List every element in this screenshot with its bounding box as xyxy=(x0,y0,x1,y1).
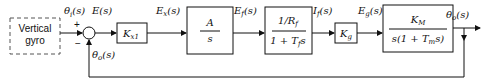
vertical-gyro-block: Vertical gyro xyxy=(10,18,60,54)
integrator-denominator: s xyxy=(207,33,212,44)
block-diagram: Vertical gyro θi(s) + − E(s) Kx1 Ex(s) A… xyxy=(0,0,485,84)
gyro-label-line2: gyro xyxy=(25,35,45,46)
ef-signal-label: Ef(s) xyxy=(233,5,257,18)
if-signal-label: If(s) xyxy=(312,5,333,18)
kg-block: Kg xyxy=(335,23,357,43)
integrator-block: A s xyxy=(187,7,233,54)
error-signal-label: E(s) xyxy=(91,5,112,16)
feedback-signal-label: θo(s) xyxy=(92,49,115,62)
kx1-block: Kx1 xyxy=(117,23,147,43)
summing-junction xyxy=(83,27,95,39)
field-circuit-block: 1/Rf 1 + Tfs xyxy=(265,7,312,54)
integrator-numerator: A xyxy=(205,17,213,28)
input-signal-label: θi(s) xyxy=(64,5,85,19)
plus-sign: + xyxy=(74,19,80,30)
ex-signal-label: Ex(s) xyxy=(155,5,180,18)
gyro-label-line1: Vertical xyxy=(19,23,52,34)
motor-block: KM s(1 + Tms) xyxy=(383,5,453,52)
minus-sign: − xyxy=(75,38,81,49)
eg-signal-label: Eg(s) xyxy=(357,5,383,18)
